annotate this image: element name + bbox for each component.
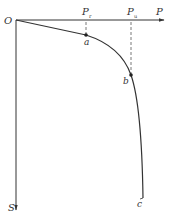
pu-label-sub: u	[134, 13, 138, 19]
pr-label-sub: r	[89, 13, 92, 19]
point-b-marker	[129, 73, 133, 77]
s-axis-label: S	[8, 202, 15, 213]
p-axis-label: P	[155, 6, 163, 17]
load-settlement-curve	[16, 20, 143, 198]
origin-label: O	[4, 15, 12, 26]
pu-label-main: P	[126, 6, 134, 17]
point-a-label: a	[84, 37, 89, 47]
load-settlement-diagram: O P S P r P u a b c	[0, 0, 172, 218]
point-c-label: c	[137, 199, 142, 209]
pr-label-main: P	[81, 6, 89, 17]
point-b-label: b	[123, 76, 129, 86]
